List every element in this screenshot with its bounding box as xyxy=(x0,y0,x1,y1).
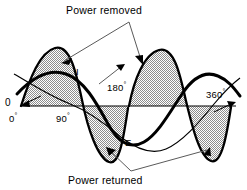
axis-tick-180deg-value: 180 xyxy=(107,82,123,93)
power-returned-label: Power returned xyxy=(68,175,143,186)
figure-ac-power-waveform: Power removed Power returned I E 0 0° 90… xyxy=(0,0,247,190)
axis-tick-360deg-value: 360 xyxy=(206,89,222,100)
power-removed-arrowhead-right xyxy=(135,55,143,65)
current-label-I: I xyxy=(76,67,79,77)
degree-symbol-0: ° xyxy=(14,112,17,119)
axis-tick-360deg: 360° xyxy=(206,88,225,100)
axis-origin-label: 0 xyxy=(5,98,11,108)
axis-tick-180deg: 180° xyxy=(107,81,126,93)
power-returned-leader xyxy=(109,150,207,171)
power-removed-leader xyxy=(64,22,141,61)
axis-tick-90deg: 90° xyxy=(56,112,70,124)
voltage-label-E: E xyxy=(125,138,132,148)
degree-symbol-360: ° xyxy=(222,88,225,95)
degree-symbol-90: ° xyxy=(67,112,70,119)
axis-tick-90deg-value: 90 xyxy=(56,113,67,124)
axis-tick-0deg: 0° xyxy=(9,112,17,124)
degree-symbol-180: ° xyxy=(123,81,126,88)
power-removed-label: Power removed xyxy=(66,5,142,16)
